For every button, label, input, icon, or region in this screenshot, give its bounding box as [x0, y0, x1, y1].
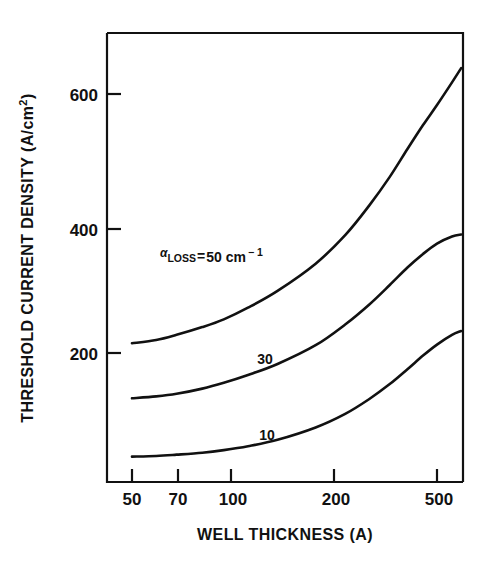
chart-svg: 600 400 200 50 70 100 200 500 WELL THICK…: [0, 0, 493, 562]
x-axis-tick-labels: 50 70 100 200 500: [123, 490, 454, 509]
figure-container: 600 400 200 50 70 100 200 500 WELL THICK…: [0, 0, 493, 562]
y-ticklabel-400: 400: [70, 221, 98, 240]
y-ticklabel-600: 600: [70, 86, 98, 105]
annotation-value: 50 cm: [206, 249, 246, 265]
y-axis-ticks: [107, 94, 121, 353]
y-axis-title-tail: ): [19, 93, 36, 99]
series-label-10: 10: [259, 427, 275, 443]
y-axis-title-main: THRESHOLD CURRENT DENSITY (A/cm: [19, 106, 36, 423]
x-ticklabel-70: 70: [169, 490, 188, 509]
x-axis-ticks: [132, 469, 437, 482]
x-ticklabel-100: 100: [219, 490, 247, 509]
y-ticklabel-200: 200: [70, 345, 98, 364]
annotation-equals: =: [197, 248, 205, 264]
x-ticklabel-200: 200: [322, 490, 350, 509]
annotation-alpha-loss-50: αLOSS=50 cm− 1: [160, 246, 263, 265]
annotation-exponent: − 1: [248, 246, 263, 258]
annotation-subscript: LOSS: [167, 252, 196, 264]
y-axis-title-group: THRESHOLD CURRENT DENSITY (A/cm2): [17, 93, 36, 422]
curve-alpha-loss-50: [132, 68, 461, 343]
x-ticklabel-500: 500: [425, 490, 453, 509]
y-axis-tick-labels: 600 400 200: [70, 86, 98, 364]
x-ticklabel-50: 50: [123, 490, 142, 509]
x-axis-title: WELL THICKNESS (A): [197, 526, 373, 543]
y-axis-title: THRESHOLD CURRENT DENSITY (A/cm2): [17, 93, 36, 422]
series-label-30: 30: [257, 351, 273, 367]
